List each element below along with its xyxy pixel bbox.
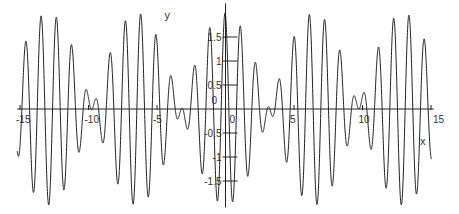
x-tick-label: -10 — [85, 114, 100, 125]
y-tick-label: 1 — [216, 56, 222, 67]
x-tick-label: -15 — [16, 114, 31, 125]
y-tick-label: -1 — [213, 152, 222, 163]
x-tick-label: 5 — [290, 114, 296, 125]
y-axis-title: y — [165, 9, 171, 21]
x-tick-label: 0 — [230, 114, 236, 125]
x-tick-label: -5 — [153, 114, 162, 125]
y-tick-label: 0.5 — [208, 80, 222, 91]
chart: -15-10-5051015-1.5-1-0.500.511.5 x y — [0, 0, 459, 214]
chart-svg: -15-10-5051015-1.5-1-0.500.511.5 x y — [0, 0, 459, 214]
x-tick-label: 15 — [433, 114, 445, 125]
x-axis-title: x — [420, 135, 426, 147]
y-tick-label: 0 — [212, 95, 218, 106]
y-tick-label: -0.5 — [204, 128, 222, 139]
y-tick-label: 1.5 — [208, 32, 222, 43]
